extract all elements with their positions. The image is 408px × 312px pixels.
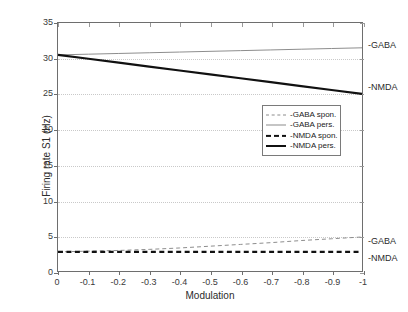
legend-label: -GABA pers.: [290, 121, 334, 129]
x-tick-mark: [272, 271, 273, 275]
series-line-gabaspon: [58, 237, 362, 252]
legend-swatch-icon: [265, 110, 287, 120]
x-tick-mark: [242, 271, 243, 275]
end-label-nmda: -NMDA: [368, 83, 398, 92]
end-label-nmda: -NMDA: [368, 254, 398, 263]
x-tick-mark-top: [364, 23, 365, 27]
x-tick-mark: [211, 271, 212, 275]
x-axis-title: Modulation: [57, 290, 363, 301]
legend-label: -GABA spon.: [290, 111, 336, 119]
legend-item[interactable]: -NMDA spon.: [265, 131, 337, 141]
legend-line-sample: [266, 125, 286, 126]
y-tick-label: 20: [43, 125, 53, 134]
x-tick-label: -0.8: [294, 278, 310, 287]
x-tick-mark: [333, 271, 334, 275]
legend-item[interactable]: -GABA spon.: [265, 110, 337, 120]
y-tick-label: 5: [48, 232, 53, 241]
legend-swatch-icon: [265, 120, 287, 130]
legend-line-sample: [266, 145, 286, 147]
x-tick-label: -0.7: [263, 278, 279, 287]
y-tick-label: 25: [43, 89, 53, 98]
x-tick-label: -0.5: [202, 278, 218, 287]
legend-label: -NMDA pers.: [290, 142, 336, 150]
x-tick-mark: [180, 271, 181, 275]
x-tick-label: -0.3: [141, 278, 157, 287]
legend-swatch-icon: [265, 141, 287, 151]
y-tick-label: 10: [43, 196, 53, 205]
x-tick-label: 0: [54, 278, 59, 287]
x-tick-mark: [58, 271, 59, 275]
end-label-gaba: -GABA: [368, 41, 396, 50]
x-tick-mark: [89, 271, 90, 275]
x-tick-mark: [150, 271, 151, 275]
x-tick-label: -1: [359, 278, 367, 287]
y-tick-label: 0: [48, 268, 53, 277]
y-tick-label: 15: [43, 160, 53, 169]
legend-item[interactable]: -GABA pers.: [265, 120, 337, 130]
figure-canvas: Firing rate S1 (Hz) Modulation 051015202…: [0, 0, 408, 312]
x-tick-label: -0.2: [110, 278, 126, 287]
x-tick-mark: [303, 271, 304, 275]
end-label-gaba: -GABA: [368, 237, 396, 246]
series-line-nmdapers: [58, 55, 362, 94]
legend-line-sample: [266, 114, 286, 115]
series-line-gabapers: [58, 48, 362, 55]
x-tick-label: -0.4: [172, 278, 188, 287]
x-tick-label: -0.9: [325, 278, 341, 287]
x-tick-label: -0.1: [80, 278, 96, 287]
x-tick-mark: [119, 271, 120, 275]
legend-box[interactable]: -GABA spon.-GABA pers.-NMDA spon.-NMDA p…: [262, 105, 341, 156]
legend-item[interactable]: -NMDA pers.: [265, 141, 337, 151]
y-tick-label: 30: [43, 53, 53, 62]
legend-line-sample: [266, 134, 286, 136]
x-tick-mark: [364, 271, 365, 275]
legend-label: -NMDA spon.: [290, 132, 338, 140]
y-tick-label: 35: [43, 18, 53, 27]
x-tick-label: -0.6: [233, 278, 249, 287]
legend-swatch-icon: [265, 131, 287, 141]
